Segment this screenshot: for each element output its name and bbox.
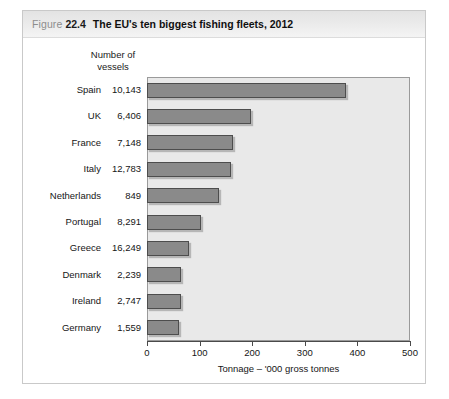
bar [147,320,179,335]
x-axis-tick [252,341,253,346]
bar [147,241,189,256]
category-label: Spain [25,77,101,103]
x-axis-line [147,341,410,342]
vessel-count-value: 12,783 [103,156,141,182]
bar [147,215,201,230]
bar-row: Greece16,249 [147,235,410,261]
figure-number: 22.4 [65,18,85,30]
x-axis-tick-label: 400 [337,347,377,358]
bars-layer: Spain10,143UK6,406France7,148Italy12,783… [147,77,410,341]
bar [147,162,231,177]
vessel-count-value: 2,239 [103,262,141,288]
bar-row: Italy12,783 [147,156,410,182]
bar-row: Ireland2,747 [147,288,410,314]
bar [147,83,346,98]
bar [147,135,233,150]
figure-header: Figure 22.4 The EU's ten biggest fishing… [23,11,425,38]
category-label: UK [25,103,101,129]
bar-row: France7,148 [147,130,410,156]
vessels-header-line2: vessels [85,61,141,73]
bar [147,294,181,309]
vessel-count-value: 8,291 [103,209,141,235]
vessels-column-header: Number of vessels [85,49,141,72]
bar-row: UK6,406 [147,103,410,129]
vessel-count-value: 10,143 [103,77,141,103]
category-label: Netherlands [25,183,101,209]
vessel-count-value: 6,406 [103,103,141,129]
x-axis-title: Tonnage – '000 gross tonnes [147,363,410,374]
vessels-header-line1: Number of [85,49,141,61]
bar-row: Denmark2,239 [147,262,410,288]
figure-title: The EU's ten biggest fishing fleets, 201… [93,18,293,30]
vessel-count-value: 1,559 [103,315,141,341]
category-label: Portugal [25,209,101,235]
category-label: Ireland [25,288,101,314]
bar-row: Spain10,143 [147,77,410,103]
chart-body: Number of vessels Spain10,143UK6,406Fran… [23,38,425,384]
bar [147,267,181,282]
figure-card: Figure 22.4 The EU's ten biggest fishing… [22,10,426,384]
bar [147,109,251,124]
x-axis-tick-label: 300 [285,347,325,358]
category-label: France [25,130,101,156]
figure-label: Figure [32,18,62,30]
category-label: Greece [25,235,101,261]
x-axis-tick-label: 500 [390,347,430,358]
category-label: Italy [25,156,101,182]
x-axis-tick-label: 100 [180,347,220,358]
vessel-count-value: 7,148 [103,130,141,156]
x-axis-tick [147,341,148,346]
x-axis-tick [305,341,306,346]
vessel-count-value: 2,747 [103,288,141,314]
category-label: Germany [25,315,101,341]
x-axis-tick-label: 200 [232,347,272,358]
category-label: Denmark [25,262,101,288]
bar-row: Netherlands849 [147,183,410,209]
bar-row: Portugal8,291 [147,209,410,235]
bar [147,188,219,203]
bar-row: Germany1,559 [147,315,410,341]
x-axis-tick-label: 0 [127,347,167,358]
vessel-count-value: 16,249 [103,235,141,261]
x-axis-tick [357,341,358,346]
x-axis-tick [200,341,201,346]
x-axis-tick [410,341,411,346]
vessel-count-value: 849 [103,183,141,209]
